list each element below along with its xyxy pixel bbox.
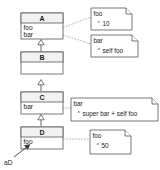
note-a-bar[interactable]: bar ^ self foo bbox=[91, 35, 138, 57]
class-c-attribute-0: bar bbox=[24, 103, 34, 110]
generalization-b-to-a bbox=[38, 40, 44, 52]
note-link-a-foo bbox=[63, 17, 91, 28]
class-box-b[interactable]: B bbox=[21, 52, 63, 74]
note-c-bar-title: bar bbox=[74, 100, 84, 107]
class-b-name: B bbox=[39, 54, 44, 61]
note-a-foo-title: foo bbox=[94, 10, 103, 17]
instance-ad-label: aD bbox=[4, 159, 13, 166]
generalization-d-to-c bbox=[38, 115, 44, 127]
note-d-foo-body: 50 bbox=[102, 142, 110, 149]
diagram-canvas: A foo bar B C bar D foo f bbox=[0, 0, 160, 170]
note-a-foo-body: 10 bbox=[103, 20, 111, 27]
class-d-attribute-0: foo bbox=[24, 138, 33, 145]
note-a-foo[interactable]: foo ^ 10 bbox=[91, 8, 132, 30]
note-c-bar[interactable]: bar ^ super bar + self foo bbox=[71, 98, 158, 121]
class-box-a[interactable]: A foo bar bbox=[21, 13, 63, 39]
class-a-name: A bbox=[39, 15, 44, 22]
note-a-bar-body: self foo bbox=[103, 47, 124, 54]
note-d-foo[interactable]: foo ^ 50 bbox=[90, 130, 131, 154]
class-a-attribute-1: bar bbox=[24, 31, 34, 38]
note-a-bar-title: bar bbox=[94, 37, 104, 44]
note-link-a-bar bbox=[63, 35, 91, 44]
class-box-c[interactable]: C bar bbox=[21, 92, 63, 114]
note-d-foo-title: foo bbox=[93, 132, 102, 139]
class-d-name: D bbox=[39, 129, 44, 136]
uml-class-diagram: A foo bar B C bar D foo f bbox=[0, 0, 160, 170]
class-c-name: C bbox=[39, 94, 44, 101]
class-a-attribute-0: foo bbox=[24, 24, 33, 31]
note-c-bar-body: super bar + self foo bbox=[83, 110, 138, 118]
generalization-c-to-b bbox=[38, 80, 44, 92]
